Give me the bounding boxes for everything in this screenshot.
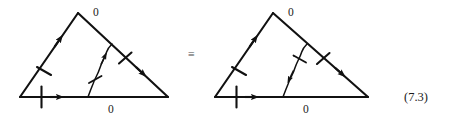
triangle-left-base-label: 0 (108, 104, 114, 116)
arrowhead-down-right-icon (335, 68, 343, 75)
triangle-left-left-edge (20, 13, 78, 97)
arrowhead-down-right-icon (136, 67, 144, 74)
triangle-right-internal-diagonal (283, 44, 307, 97)
equivalence-symbol: ≡ (188, 48, 195, 60)
arrowhead-up-right-icon (55, 38, 61, 47)
triangle-left (20, 13, 168, 108)
triangle-right-base-edge (215, 87, 368, 108)
triangle-right-apex-label: 0 (288, 7, 294, 19)
triangle-left-base-edge (20, 87, 168, 108)
equation-number: (7.3) (404, 91, 428, 104)
triangle-right (215, 13, 368, 108)
arrowhead-up-right-icon (250, 38, 256, 47)
figure-container: 0 0 0 0 ≡ (7.3) (0, 0, 451, 131)
arrowhead-up-right-icon (101, 56, 105, 65)
triangle-right-base-label: 0 (303, 104, 309, 116)
triangle-left-internal-diagonal (88, 44, 112, 97)
triangle-left-hypotenuse-edge (78, 13, 168, 97)
triangle-right-left-edge (215, 13, 273, 97)
triangle-equivalence-diagram (0, 0, 451, 131)
triangle-left-apex-label: 0 (93, 7, 99, 19)
